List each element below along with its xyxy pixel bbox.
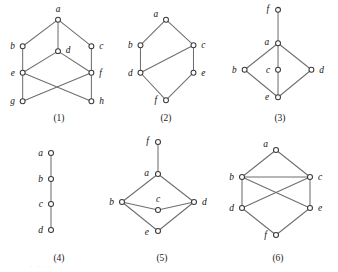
vertex-d (192, 200, 197, 205)
edge-a-b (242, 150, 276, 177)
vertex-label-d: d (38, 225, 43, 235)
vertex-label-e: e (145, 227, 149, 237)
edge-d-c (140, 45, 193, 72)
vertex-f (156, 140, 161, 145)
vertex-b (49, 177, 54, 182)
edge-group (140, 20, 193, 101)
edge-group (245, 10, 312, 97)
edge-e-f (276, 208, 310, 235)
vertex-label-a: a (263, 139, 268, 149)
diagram-cell-2: abcdef(2) (110, 4, 222, 128)
vertex-label-c: c (99, 41, 104, 51)
diagram-cell-3: fabcde(3) (222, 0, 338, 128)
edge-d-f (58, 51, 91, 73)
vertex-label-a: a (38, 148, 43, 158)
edge-a-c (58, 20, 91, 47)
diagram-cell-4: abcd(4) (0, 140, 118, 268)
vertex-d (240, 206, 245, 211)
vertex-label-e: e (201, 68, 205, 78)
vertex-label-f: f (155, 95, 159, 105)
vertex-label-c: c (266, 65, 271, 75)
hasse-graph-2: abcdef (110, 4, 222, 112)
vertex-c (49, 202, 54, 207)
diagram-caption-1: (1) (0, 113, 118, 123)
hasse-graph-5: fabcde (104, 132, 220, 252)
vertex-label-d: d (128, 68, 133, 78)
hasse-graph-3: fabcde (222, 0, 338, 112)
vertex-a (56, 17, 61, 22)
vertex-label-f: f (264, 230, 268, 240)
vertex-label-d: d (319, 65, 324, 75)
vertex-b (20, 44, 25, 49)
edge-b-e (245, 70, 278, 98)
vertex-c (156, 208, 161, 213)
vertex-label-a: a (56, 4, 61, 14)
vertex-label-e: e (11, 68, 15, 78)
vertex-label-h: h (99, 96, 104, 106)
vertex-label-a: a (153, 9, 158, 19)
diagram-caption-5: (5) (104, 253, 220, 263)
vertex-c (191, 43, 196, 48)
vertex-label-d: d (229, 203, 234, 213)
vertex-g (20, 99, 25, 104)
vertex-label-b: b (109, 197, 114, 207)
vertex-d (309, 67, 314, 72)
hasse-graph-6: abcdef (218, 132, 338, 252)
diagram-cell-6: abcdef(6) (218, 132, 338, 268)
diagram-cell-5: fabcde(5) (104, 132, 220, 268)
vertex-label-f: f (146, 136, 150, 146)
scan-artifact: · ·· · (30, 264, 53, 270)
vertex-c (308, 175, 313, 180)
vertex-f (276, 7, 281, 12)
vertex-a (274, 148, 279, 153)
edge-d-f (140, 73, 166, 100)
vertex-d (49, 228, 54, 233)
vertex-e (276, 95, 281, 100)
diagram-caption-3: (3) (222, 113, 338, 123)
node-group: abcdef (229, 139, 323, 240)
vertex-label-b: b (128, 40, 133, 50)
vertex-label-e: e (265, 92, 269, 102)
vertex-label-c: c (201, 40, 206, 50)
vertex-a (156, 172, 161, 177)
vertex-label-d: d (66, 45, 71, 55)
vertex-c (89, 44, 94, 49)
edge-a-b (245, 43, 278, 70)
vertex-label-e: e (318, 203, 322, 213)
node-group: abcdef (128, 9, 206, 105)
vertex-label-a: a (265, 37, 270, 47)
vertex-label-d: d (202, 197, 207, 207)
edge-a-c (166, 20, 193, 46)
edge-a-d (278, 43, 311, 70)
edge-group (23, 20, 92, 101)
vertex-label-f: f (267, 4, 271, 14)
vertex-label-c: c (156, 194, 161, 204)
vertex-e (191, 70, 196, 75)
vertex-b (138, 43, 143, 48)
vertex-label-b: b (232, 65, 237, 75)
edge-d-e (23, 51, 58, 73)
edge-a-b (140, 20, 166, 46)
diagram-cell-1: abcdefgh(1) (0, 4, 118, 128)
edge-a-b (23, 20, 58, 47)
vertex-h (89, 99, 94, 104)
vertex-label-a: a (144, 168, 149, 178)
vertex-label-g: g (10, 96, 15, 106)
vertex-label-c: c (39, 199, 44, 209)
hasse-diagram-figure-sheet: abcdefgh(1)abcdef(2)fabcde(3)abcd(4)fabc… (0, 0, 338, 272)
vertex-f (274, 233, 279, 238)
diagram-caption-6: (6) (218, 253, 338, 263)
hasse-graph-4: abcd (0, 140, 118, 252)
vertex-f (89, 70, 94, 75)
vertex-label-f: f (99, 68, 103, 78)
diagram-caption-2: (2) (110, 113, 222, 123)
edge-d-e (278, 70, 311, 98)
edge-group (242, 150, 310, 235)
vertex-label-b: b (38, 174, 43, 184)
vertex-d (138, 70, 143, 75)
edge-a-d (158, 174, 194, 202)
vertex-e (156, 229, 161, 234)
vertex-f (164, 98, 169, 103)
vertex-c (276, 67, 281, 72)
hasse-graph-1: abcdefgh (0, 4, 118, 112)
